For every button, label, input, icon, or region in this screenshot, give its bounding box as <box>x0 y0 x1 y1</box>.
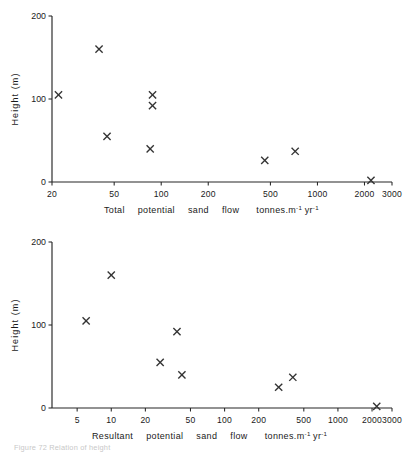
y-tick-label: 200 <box>31 237 46 247</box>
y-axis-title: Height (m) <box>10 72 20 125</box>
x-tick-label: 200 <box>251 415 266 425</box>
data-point-marker <box>261 157 268 164</box>
x-tick-label: 2000 <box>362 415 382 425</box>
data-point-marker <box>367 177 374 184</box>
chart-panel-resultant-sand-flow: 01002005102050100200500100020003000Heigh… <box>0 226 406 452</box>
x-tick-label: 2000 <box>355 189 375 199</box>
x-axis-title: Totalpotentialsandflowtonnes.m-1yr-1 <box>104 204 319 215</box>
x-tick-label: 200 <box>201 189 216 199</box>
x-tick-label: 500 <box>296 415 311 425</box>
x-tick-label: 1000 <box>328 415 348 425</box>
chart-panel-total-sand-flow: 01002002050100200500100020003000Height (… <box>0 0 406 226</box>
data-point-marker <box>55 91 62 98</box>
data-point-marker <box>178 371 185 378</box>
y-tick-label: 0 <box>41 403 46 413</box>
data-point-marker <box>83 317 90 324</box>
y-tick-label: 0 <box>41 177 46 187</box>
x-tick-label: 20 <box>47 189 57 199</box>
scatter-plot-resultant: 01002005102050100200500100020003000Heigh… <box>0 226 406 452</box>
data-point-marker <box>147 145 154 152</box>
data-point-marker <box>157 359 164 366</box>
data-point-marker <box>108 272 115 279</box>
figure-caption: Figure 72 Relation of height <box>14 444 406 452</box>
x-tick-label: 50 <box>185 415 195 425</box>
x-tick-label: 100 <box>217 415 232 425</box>
x-tick-label: 500 <box>263 189 278 199</box>
x-tick-label: 20 <box>140 415 150 425</box>
data-point-marker <box>173 328 180 335</box>
scatter-plot-total: 01002002050100200500100020003000Height (… <box>0 0 406 226</box>
data-point-marker <box>103 133 110 140</box>
x-tick-label: 3000 <box>382 189 402 199</box>
y-tick-label: 100 <box>31 320 46 330</box>
y-tick-label: 100 <box>31 94 46 104</box>
data-point-marker <box>289 374 296 381</box>
x-tick-label: 3000 <box>382 415 402 425</box>
data-point-marker <box>292 148 299 155</box>
x-tick-label: 10 <box>106 415 116 425</box>
data-point-marker <box>95 46 102 53</box>
data-point-marker <box>373 403 380 410</box>
x-axis-title: Resultantpotentialsandflowtonnes.m-1yr-1 <box>92 430 328 441</box>
x-tick-label: 50 <box>109 189 119 199</box>
x-tick-label: 100 <box>154 189 169 199</box>
y-tick-label: 200 <box>31 11 46 21</box>
y-axis-title: Height (m) <box>10 298 20 351</box>
x-tick-label: 5 <box>75 415 80 425</box>
data-point-marker <box>149 102 156 109</box>
data-point-marker <box>149 91 156 98</box>
x-tick-label: 1000 <box>307 189 327 199</box>
data-point-marker <box>275 384 282 391</box>
